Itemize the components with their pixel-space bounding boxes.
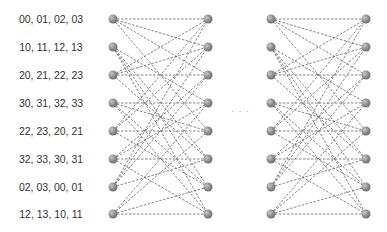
- node-right-0: [362, 15, 371, 24]
- edge: [271, 159, 366, 214]
- node-right-0: [204, 15, 213, 24]
- edge: [271, 47, 366, 75]
- edge: [271, 187, 366, 214]
- node-right-2: [204, 71, 213, 80]
- node-left-2: [109, 71, 118, 80]
- edge: [113, 47, 208, 75]
- edge: [113, 131, 208, 214]
- edge: [113, 187, 208, 214]
- node-left-4: [267, 127, 276, 136]
- node-left-5: [109, 155, 118, 164]
- node-right-4: [362, 127, 371, 136]
- edge: [113, 47, 208, 131]
- edge: [271, 19, 366, 47]
- bipartite-network-diagram: [0, 0, 387, 232]
- node-left-2: [267, 71, 276, 80]
- node-right-3: [362, 99, 371, 108]
- node-left-7: [109, 210, 118, 219]
- node-right-2: [362, 71, 371, 80]
- node-right-1: [204, 43, 213, 52]
- node-right-3: [204, 99, 213, 108]
- node-left-3: [267, 99, 276, 108]
- node-right-7: [362, 210, 371, 219]
- node-right-7: [204, 210, 213, 219]
- node-left-7: [267, 210, 276, 219]
- ellipsis-separator: · · ·: [231, 106, 250, 116]
- edge: [113, 19, 208, 47]
- stage-0: [109, 15, 213, 219]
- node-right-1: [362, 43, 371, 52]
- node-left-4: [109, 127, 118, 136]
- node-right-5: [362, 155, 371, 164]
- edge: [113, 159, 208, 187]
- node-left-1: [267, 43, 276, 52]
- stage-1: [267, 15, 371, 219]
- node-left-0: [109, 15, 118, 24]
- edge: [271, 131, 366, 214]
- edge: [271, 103, 366, 187]
- node-right-4: [204, 127, 213, 136]
- node-right-6: [362, 183, 371, 192]
- edge: [113, 103, 208, 187]
- node-right-5: [204, 155, 213, 164]
- node-left-5: [267, 155, 276, 164]
- node-left-0: [267, 15, 276, 24]
- node-left-1: [109, 43, 118, 52]
- edge: [113, 159, 208, 214]
- edge: [271, 159, 366, 187]
- node-right-6: [204, 183, 213, 192]
- edge: [271, 47, 366, 131]
- node-left-6: [267, 183, 276, 192]
- node-left-6: [109, 183, 118, 192]
- node-left-3: [109, 99, 118, 108]
